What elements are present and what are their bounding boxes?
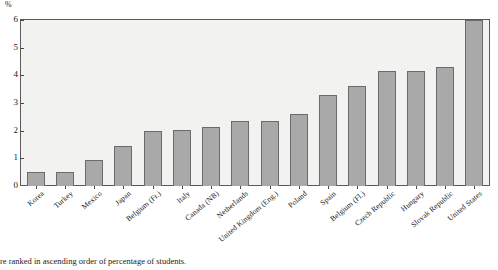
x-axis-category-label: Hungary	[399, 189, 426, 213]
bar	[27, 172, 45, 186]
x-axis-category-label: Japan	[114, 189, 133, 207]
bar	[407, 71, 425, 186]
bar-series	[21, 20, 489, 186]
bar	[261, 121, 279, 186]
bar	[173, 130, 191, 186]
x-axis-category-label: Turkey	[52, 189, 75, 210]
bar	[231, 121, 249, 186]
chart-footnote: re ranked in ascending order of percenta…	[0, 256, 498, 266]
x-axis-category-labels: KoreaTurkeyMexicoJapanBelgium (Fr.)Italy…	[0, 189, 498, 251]
bar	[85, 160, 103, 186]
bar	[202, 127, 220, 186]
bar	[290, 114, 308, 186]
y-axis-tick-label: 3	[4, 98, 18, 107]
x-axis-category-label: Italy	[175, 189, 192, 205]
bar	[436, 67, 454, 186]
bar	[319, 95, 337, 186]
y-axis-tick-label: 4	[4, 70, 18, 79]
y-axis-tick-label: 6	[4, 15, 18, 24]
y-axis-tick-labels: 0123456	[0, 19, 18, 186]
x-axis-category-label: Korea	[25, 189, 45, 208]
bar	[348, 86, 366, 186]
bar	[56, 172, 74, 186]
x-axis-category-label: Mexico	[80, 189, 104, 211]
y-axis-tick-label: 5	[4, 42, 18, 51]
y-axis-tick-label: 1	[4, 153, 18, 162]
bar	[114, 146, 132, 186]
x-axis-category-label: Poland	[286, 189, 308, 210]
y-axis-tick-label: 2	[4, 125, 18, 134]
chart-figure: % 0123456 KoreaTurkeyMexicoJapanBelgium …	[0, 0, 498, 270]
bar	[465, 20, 483, 186]
bar	[144, 131, 162, 186]
x-axis-category-label: Spain	[318, 189, 337, 207]
y-axis-unit-label: %	[5, 0, 12, 9]
bar	[378, 71, 396, 186]
